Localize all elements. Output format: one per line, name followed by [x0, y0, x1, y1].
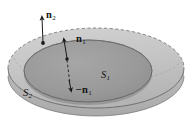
label-normal-minus-n1: −n1 [76, 85, 92, 97]
label-s2-subscript: 2 [28, 92, 32, 100]
geometry-diagram-svg [0, 0, 193, 130]
label-minus-n1-symbol: −n [76, 84, 88, 95]
label-n2-symbol: n [46, 9, 52, 20]
label-n1-subscript: 1 [82, 38, 86, 46]
label-n2-subscript: 2 [52, 14, 56, 22]
label-s1-subscript: 1 [106, 74, 110, 82]
label-normal-n1: n1 [76, 34, 86, 46]
label-surface-s2: S2 [23, 88, 32, 100]
figure-container: n2 n1 −n1 S1 S2 [0, 0, 193, 130]
label-surface-s1: S1 [101, 70, 110, 82]
label-n1-symbol: n [76, 33, 82, 44]
label-minus-n1-subscript: 1 [88, 89, 92, 97]
label-normal-n2: n2 [46, 10, 56, 22]
